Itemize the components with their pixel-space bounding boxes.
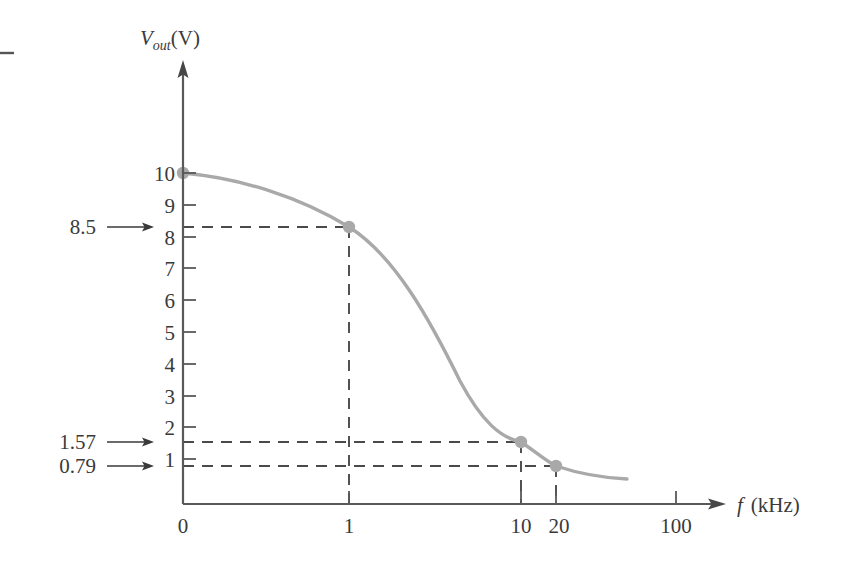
data-point-10-1-57 (515, 436, 527, 448)
callout-label-0-79: 0.79 (59, 454, 96, 478)
y-axis-ticks (183, 173, 196, 459)
x-tick-label-1: 1 (344, 514, 355, 538)
x-axis-tick-labels: 0 1 10 20 100 (178, 514, 692, 538)
y-axis-title: Vout(V) (140, 26, 200, 53)
x-tick-label-10: 10 (511, 514, 532, 538)
x-axis: 0 1 10 20 100 f(kHz) (178, 491, 800, 538)
y-axis-title-unit: (V) (171, 26, 200, 50)
data-point-markers (177, 167, 562, 472)
x-axis-title-symbol: f (737, 493, 746, 517)
data-point-1-8-5 (343, 221, 355, 233)
y-tick-label-5: 5 (165, 321, 176, 345)
y-tick-label-2: 2 (165, 416, 176, 440)
callout-0-79: 0.79 (59, 454, 154, 478)
callout-label-8-5: 8.5 (70, 215, 96, 239)
y-tick-label-4: 4 (165, 353, 176, 377)
figure-container: 10 9 8 7 6 5 4 3 2 1 Vout(V) 0 1 10 (0, 0, 852, 580)
y-axis: 10 9 8 7 6 5 4 3 2 1 Vout(V) (140, 26, 200, 504)
y-tick-label-7: 7 (165, 257, 176, 281)
y-tick-label-10: 10 (154, 162, 175, 186)
x-tick-label-100: 100 (660, 514, 692, 538)
y-axis-tick-labels: 10 9 8 7 6 5 4 3 2 1 (154, 162, 176, 472)
y-tick-label-8: 8 (165, 226, 176, 250)
y-tick-label-9: 9 (165, 194, 176, 218)
y-tick-label-1: 1 (165, 448, 176, 472)
data-point-20-0-79 (550, 460, 562, 472)
callout-1-57: 1.57 (59, 430, 154, 454)
callout-label-1-57: 1.57 (59, 430, 96, 454)
x-axis-title: f(kHz) (737, 493, 800, 517)
x-tick-label-0: 0 (178, 514, 189, 538)
data-curve-vout (183, 173, 627, 479)
callout-8-5: 8.5 (70, 215, 154, 239)
x-tick-label-20: 20 (549, 514, 570, 538)
guide-lines-group (183, 227, 557, 504)
x-axis-ticks (183, 491, 676, 504)
y-axis-title-subscript: out (153, 38, 172, 53)
chart-svg: 10 9 8 7 6 5 4 3 2 1 Vout(V) 0 1 10 (0, 0, 852, 580)
y-tick-label-3: 3 (165, 385, 176, 409)
x-axis-title-unit: (kHz) (751, 493, 800, 517)
y-tick-label-6: 6 (165, 289, 176, 313)
